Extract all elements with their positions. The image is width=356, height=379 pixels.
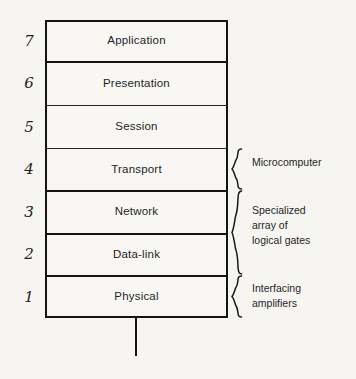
layer-label: Physical (114, 290, 158, 302)
layer-number-network: 3 (14, 190, 44, 233)
layer-band-physical: Physical (47, 275, 226, 318)
curly-brace-icon (231, 275, 244, 318)
layer-number-column: 7654321 (14, 20, 44, 318)
layer-band-session: Session (47, 105, 226, 148)
layer-band-data-link: Data-link (47, 233, 226, 275)
layer-label: Transport (111, 163, 162, 175)
layer-number-physical: 1 (14, 275, 44, 318)
annotation-label-1: Microcomputer (252, 155, 321, 170)
osi-layer-stack: ApplicationPresentationSessionTransportN… (45, 20, 228, 318)
layer-label: Data-link (113, 248, 160, 260)
layer-label: Session (115, 120, 157, 132)
annotation-label-2: Specialized array of logical gates (252, 203, 310, 248)
layer-label: Network (115, 205, 159, 217)
curly-brace-icon (231, 190, 244, 275)
layer-number-session: 5 (14, 105, 44, 148)
layer-label: Presentation (103, 77, 170, 89)
layer-divider (47, 233, 226, 235)
layer-number-presentation: 6 (14, 61, 44, 105)
layer-divider (47, 61, 226, 63)
layer-band-network: Network (47, 190, 226, 233)
layer-number-data-link: 2 (14, 233, 44, 275)
curly-brace-icon (231, 148, 244, 190)
figure-canvas: 7654321 ApplicationPresentationSessionTr… (0, 0, 356, 379)
layer-number-transport: 4 (14, 148, 44, 190)
annotation-label-3: Interfacing amplifiers (252, 281, 301, 311)
layer-divider (47, 190, 226, 192)
layer-band-presentation: Presentation (47, 61, 226, 105)
layer-label: Application (107, 34, 165, 46)
layer-band-transport: Transport (47, 148, 226, 190)
layer-divider (47, 105, 226, 106)
layer-number-application: 7 (14, 20, 44, 61)
transmission-medium-stem (135, 318, 137, 356)
layer-divider (47, 148, 226, 149)
layer-band-application: Application (47, 20, 226, 61)
layer-divider (47, 275, 226, 277)
